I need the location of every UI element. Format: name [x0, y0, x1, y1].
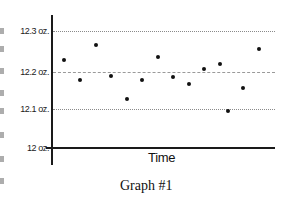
y-tick-label-12-1: 12.1 oz.	[20, 104, 49, 114]
figure-caption: Graph #1	[120, 178, 173, 194]
data-point	[171, 75, 175, 79]
data-point	[257, 47, 261, 51]
y-tick-label-12-2: 12.2 oz.	[20, 67, 49, 77]
data-point	[125, 97, 129, 101]
data-point	[226, 109, 230, 113]
data-point	[62, 58, 66, 62]
data-point	[109, 74, 113, 78]
data-point	[94, 43, 98, 47]
data-point	[78, 78, 82, 82]
data-point	[140, 78, 144, 82]
y-axis	[51, 15, 53, 165]
data-point	[241, 86, 245, 90]
x-axis	[46, 147, 275, 149]
x-axis-title: Time	[148, 150, 175, 165]
data-point	[187, 82, 191, 86]
data-point	[202, 67, 206, 71]
cropped-margin-text	[0, 28, 5, 188]
gridline-12-1	[53, 109, 275, 110]
data-point	[156, 55, 160, 59]
data-point	[218, 62, 222, 66]
gridline-12-2	[53, 72, 275, 73]
y-tick-label-12-3: 12.3 oz.	[20, 26, 49, 36]
gridline-12-3	[53, 31, 275, 32]
